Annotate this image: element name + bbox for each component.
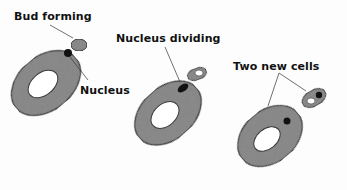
- nucleus: [64, 49, 72, 57]
- nucleus: [284, 118, 291, 125]
- label-bud-forming: Bud forming: [14, 10, 92, 23]
- cell-stage-2: [122, 65, 213, 158]
- bud: [71, 39, 87, 51]
- leader-line-nucleus-dividing: [165, 47, 180, 82]
- diagram-canvas: [0, 0, 347, 190]
- cell-stage-1: [0, 37, 93, 129]
- label-two-new-cells: Two new cells: [233, 60, 320, 73]
- daughter-nucleus: [316, 92, 322, 98]
- label-nucleus: Nucleus: [80, 84, 130, 97]
- budding-diagram: Bud forming Nucleus Nucleus dividing Two…: [0, 0, 347, 190]
- leader-line-mother: [268, 73, 279, 106]
- cell-stage-3: [226, 85, 330, 179]
- daughter-vacuole: [307, 98, 315, 104]
- daughter-cell: [299, 85, 330, 112]
- leader-line-daughter: [279, 73, 306, 91]
- label-nucleus-dividing: Nucleus dividing: [116, 32, 221, 45]
- leader-line-bud: [50, 25, 73, 38]
- bud-vacuole: [195, 70, 203, 76]
